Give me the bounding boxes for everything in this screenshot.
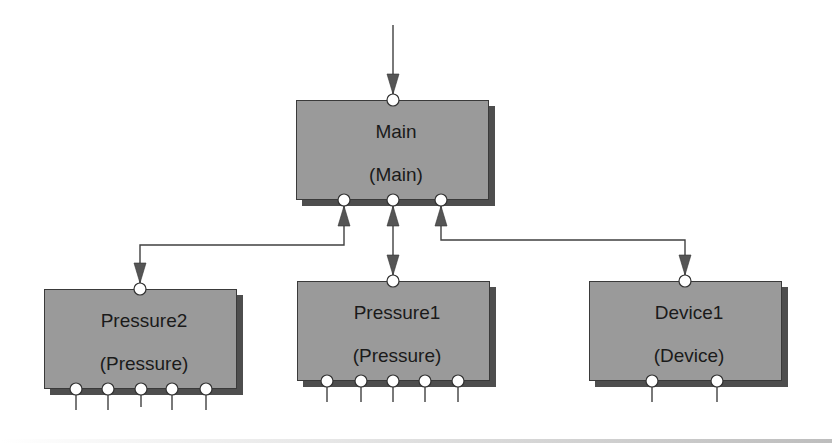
port-main-out-2[interactable] xyxy=(387,194,399,206)
port-pressure1-out-4[interactable] xyxy=(419,375,431,387)
port-pressure2-out-5[interactable] xyxy=(200,383,212,395)
port-device1-out-1[interactable] xyxy=(646,375,658,387)
port-pressure2-out-3[interactable] xyxy=(135,383,147,395)
port-pressure1-out-3[interactable] xyxy=(387,375,399,387)
diagram-canvas: Main (Main) Pressure2 (Pressure) Pressur… xyxy=(0,0,832,443)
port-main-out-3[interactable] xyxy=(435,194,447,206)
port-device1-out-2[interactable] xyxy=(711,375,723,387)
port-pressure2-out-1[interactable] xyxy=(70,383,82,395)
port-pressure1-out-2[interactable] xyxy=(355,375,367,387)
port-pressure2-in[interactable] xyxy=(134,283,146,295)
port-pressure1-in[interactable] xyxy=(387,275,399,287)
port-pressure1-out-5[interactable] xyxy=(452,375,464,387)
port-pressure2-out-2[interactable] xyxy=(102,383,114,395)
port-main-out-1[interactable] xyxy=(338,194,350,206)
port-device1-in[interactable] xyxy=(679,275,691,287)
port-pressure2-out-4[interactable] xyxy=(166,383,178,395)
bottom-divider xyxy=(0,439,832,443)
ports-layer xyxy=(0,0,832,443)
port-main-in[interactable] xyxy=(387,94,399,106)
port-pressure1-out-1[interactable] xyxy=(321,375,333,387)
